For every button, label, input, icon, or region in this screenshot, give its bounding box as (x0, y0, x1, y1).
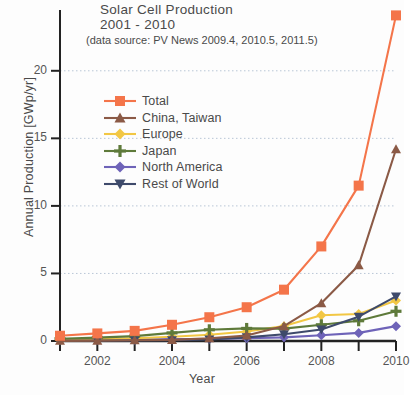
data-point-marker (242, 302, 252, 312)
legend-label: Japan (142, 144, 177, 158)
data-point-marker (354, 328, 364, 338)
data-point-marker (316, 241, 326, 251)
y-tick-label: 20 (19, 63, 47, 77)
x-tick-label: 2004 (149, 354, 195, 368)
legend-item-north-america[interactable]: North America (103, 159, 223, 176)
data-point-marker (391, 321, 401, 331)
data-point-marker (354, 181, 364, 191)
legend-item-japan[interactable]: Japan (103, 143, 223, 160)
data-point-marker (204, 312, 214, 322)
data-point-marker (114, 145, 126, 157)
data-point-marker (115, 96, 125, 106)
legend-label: Rest of World (142, 177, 219, 191)
data-point-marker (391, 10, 401, 20)
data-point-marker (391, 144, 401, 153)
data-point-marker (316, 310, 326, 320)
x-tick-label: 2006 (224, 354, 270, 368)
data-point-marker (55, 331, 65, 341)
legend-label: China, Taiwan (142, 111, 222, 125)
y-axis-label: Annual Production [GWp/yr] (22, 52, 36, 262)
y-tick-label: 10 (19, 198, 47, 212)
data-point-marker (167, 320, 177, 330)
data-point-marker (130, 326, 140, 336)
chart-subtitle: 2001 - 2010 (86, 17, 376, 32)
y-tick-label: 15 (19, 130, 47, 144)
chart-title: Solar Cell Production (86, 2, 376, 17)
y-tick-label: 5 (19, 265, 47, 279)
legend-item-total[interactable]: Total (103, 93, 223, 110)
data-point-marker (279, 285, 289, 295)
chart-legend: TotalChina, TaiwanEuropeJapanNorth Ameri… (103, 93, 223, 192)
legend-item-china-taiwan[interactable]: China, Taiwan (103, 110, 223, 127)
data-point-marker (354, 260, 364, 269)
chart-data-source: (data source: PV News 2009.4, 2010.5, 20… (86, 34, 376, 46)
legend-item-rest-of-world[interactable]: Rest of World (103, 176, 223, 193)
data-point-marker (92, 328, 102, 338)
legend-marker-icon (103, 126, 137, 142)
data-point-marker (115, 162, 126, 173)
legend-marker-icon (103, 93, 137, 109)
legend-marker-icon (103, 110, 137, 126)
legend-item-europe[interactable]: Europe (103, 126, 223, 143)
x-tick-label: 2002 (74, 354, 120, 368)
legend-marker-icon (103, 176, 137, 192)
legend-label: Europe (142, 127, 183, 141)
legend-marker-icon (103, 159, 137, 175)
x-axis-label: Year (0, 372, 404, 386)
legend-marker-icon (103, 143, 137, 159)
y-tick-label: 0 (19, 333, 47, 347)
x-tick-label: 2010 (373, 354, 414, 368)
x-tick-label: 2008 (298, 354, 344, 368)
legend-label: Total (142, 94, 169, 108)
chart-title-block: Solar Cell Production 2001 - 2010 (data … (86, 2, 376, 47)
legend-label: North America (142, 160, 223, 174)
data-point-marker (115, 129, 126, 140)
data-point-marker (391, 306, 402, 317)
